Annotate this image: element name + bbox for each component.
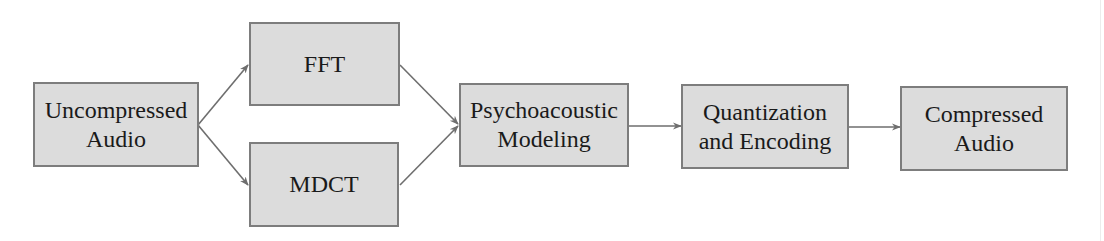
node-fft: FFT (249, 22, 400, 106)
node-uncompressed-audio: Uncompressed Audio (33, 82, 199, 167)
diagram-canvas: Uncompressed Audio FFT MDCT Psychoacoust… (0, 0, 1104, 241)
node-label-line: and Encoding (699, 127, 832, 156)
node-label-line: Psychoacoustic (470, 96, 618, 125)
node-psychoacoustic-modeling: Psychoacoustic Modeling (459, 83, 629, 167)
node-label-line: Uncompressed (45, 96, 188, 125)
edge-uncompressed-to-fft (198, 65, 248, 125)
node-label-line: Compressed (925, 100, 1044, 129)
node-label-line: Audio (45, 125, 188, 154)
node-compressed-audio: Compressed Audio (900, 86, 1068, 171)
node-label-line: MDCT (289, 170, 358, 199)
edge-uncompressed-to-mdct (198, 125, 248, 185)
node-label-line: Audio (925, 129, 1044, 158)
node-label-line: Quantization (699, 98, 832, 127)
page-edge-divider (1100, 0, 1101, 241)
node-label-line: FFT (304, 50, 345, 79)
edge-mdct-to-psycho (400, 126, 458, 185)
node-mdct: MDCT (249, 142, 399, 227)
node-quantization-encoding: Quantization and Encoding (681, 84, 849, 169)
node-label-line: Modeling (470, 125, 618, 154)
edge-fft-to-psycho (400, 65, 458, 124)
